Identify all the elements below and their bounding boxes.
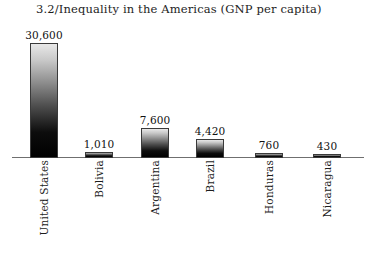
category-label-honduras: Honduras xyxy=(255,160,283,252)
bar-rect xyxy=(85,152,113,158)
bar-rect xyxy=(141,128,169,158)
plot-area: 30,600 1,010 7,600 4,420 760 430 xyxy=(0,22,377,158)
x-axis-line xyxy=(12,157,364,158)
bar-rect xyxy=(313,154,341,158)
bar-bolivia: 1,010 xyxy=(85,152,113,158)
bar-brazil: 4,420 xyxy=(196,139,224,158)
category-label-bolivia: Bolivia xyxy=(85,160,113,252)
chart-figure: 3.2/Inequality in the Americas (GNP per … xyxy=(0,0,377,253)
bar-value-label: 760 xyxy=(259,139,279,151)
category-label-united-states: United States xyxy=(30,160,58,252)
category-label-text: United States xyxy=(39,160,50,236)
bar-nicaragua: 430 xyxy=(313,154,341,158)
bar-rect xyxy=(255,153,283,158)
category-label-nicaragua: Nicaragua xyxy=(313,160,341,252)
category-label-text: Bolivia xyxy=(94,160,105,198)
category-label-brazil: Brazil xyxy=(196,160,224,252)
bar-united-states: 30,600 xyxy=(30,43,58,158)
bar-honduras: 760 xyxy=(255,153,283,158)
bar-value-label: 1,010 xyxy=(84,138,115,150)
category-label-argentina: Argentina xyxy=(141,160,169,252)
bar-rect xyxy=(196,139,224,158)
bar-value-label: 7,600 xyxy=(140,114,171,126)
category-label-text: Nicaragua xyxy=(322,160,333,218)
chart-title: 3.2/Inequality in the Americas (GNP per … xyxy=(36,2,322,16)
bar-value-label: 430 xyxy=(317,140,337,152)
category-label-text: Argentina xyxy=(150,160,161,215)
category-axis-labels: United States Bolivia Argentina Brazil H… xyxy=(0,160,377,253)
category-label-text: Brazil xyxy=(205,160,216,192)
bar-value-label: 30,600 xyxy=(25,29,62,41)
category-label-text: Honduras xyxy=(264,160,275,214)
bar-rect xyxy=(30,43,58,158)
bar-argentina: 7,600 xyxy=(141,128,169,158)
bar-value-label: 4,420 xyxy=(195,125,226,137)
